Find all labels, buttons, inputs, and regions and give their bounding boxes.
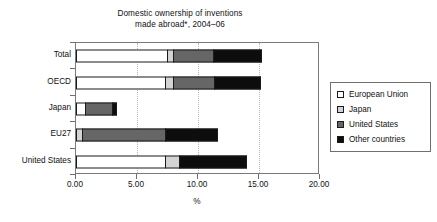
legend-item[interactable]: European Union (337, 88, 424, 101)
bar-segment (165, 129, 217, 142)
legend-swatch-icon (337, 106, 344, 113)
legend-item[interactable]: United States (337, 118, 424, 131)
legend-item[interactable]: Japan (337, 103, 424, 116)
y-axis-tick-mark (70, 68, 75, 69)
x-axis-tick-label: 0.00 (55, 180, 95, 190)
bar-segment (214, 76, 260, 89)
bar-row (76, 69, 318, 95)
y-axis-tick-label: EU27 (51, 129, 71, 139)
legend-swatch-icon (337, 91, 344, 98)
bar-segment (179, 155, 247, 168)
plot-area (75, 42, 319, 174)
bar-track (76, 76, 261, 89)
bar-segment (76, 155, 166, 168)
bar-segment (82, 129, 166, 142)
x-axis-tick-label: 10.00 (177, 180, 217, 190)
bar-segment (165, 155, 180, 168)
bar-segment (85, 102, 113, 115)
bar-row (76, 43, 318, 69)
bar-track (76, 129, 218, 142)
bar-segment (173, 50, 214, 63)
x-axis-tick-mark (258, 174, 259, 179)
bar-segment (76, 76, 166, 89)
y-axis-tick-label: Japan (49, 103, 71, 113)
bar-row (76, 149, 318, 175)
bar-track (76, 102, 117, 115)
legend-item-label: United States (349, 120, 398, 129)
bar-row (76, 122, 318, 148)
bar-segment (173, 76, 216, 89)
chart-title-line-1: Domestic ownership of inventions (60, 8, 300, 19)
legend-swatch-icon (337, 121, 344, 128)
y-axis-tick-label: Total (54, 50, 71, 60)
x-axis-tick-label: 15.00 (238, 180, 278, 190)
legend-item-label: European Union (349, 90, 408, 99)
y-axis-tick-label: OECD (47, 77, 71, 87)
legend-item-label: Other countries (349, 135, 405, 144)
legend-item-label: Japan (349, 105, 371, 114)
y-axis-tick-mark (70, 95, 75, 96)
x-axis-tick-label: 20.00 (299, 180, 339, 190)
legend-item[interactable]: Other countries (337, 133, 424, 146)
x-axis-tick-mark (197, 174, 198, 179)
y-axis-tick-mark (70, 148, 75, 149)
bar-track (76, 50, 262, 63)
bar-segment (112, 102, 117, 115)
x-axis-tick-label: 5.00 (116, 180, 156, 190)
legend-swatch-icon (337, 136, 344, 143)
y-axis-tick-mark (70, 42, 75, 43)
bar-row (76, 96, 318, 122)
x-axis-tick-mark (136, 174, 137, 179)
y-axis-tick-mark (70, 121, 75, 122)
bar-segment (76, 50, 168, 63)
chart-title-line-2: made abroad*, 2004–06 (60, 19, 300, 30)
x-axis-title: % (75, 197, 319, 206)
x-axis-tick-mark (75, 174, 76, 179)
chart-title: Domestic ownership of inventions made ab… (60, 8, 300, 30)
chart-container: Domestic ownership of inventions made ab… (0, 0, 437, 222)
bar-segment (213, 50, 262, 63)
x-axis-tick-mark (319, 174, 320, 179)
bar-track (76, 155, 247, 168)
y-axis-tick-label: United States (22, 156, 71, 166)
chart-legend: European UnionJapanUnited StatesOther co… (330, 82, 431, 152)
